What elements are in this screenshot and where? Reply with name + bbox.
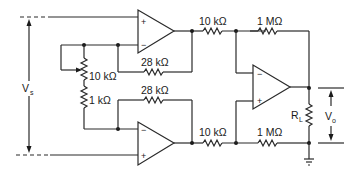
bottom-output-resistor-label: 1 MΩ — [257, 126, 283, 138]
bottom-input-opamp: − + — [138, 122, 174, 165]
pot-resistor-icon — [81, 58, 87, 80]
top-output-path: 10 kΩ 1 MΩ — [174, 15, 309, 88]
output-opamp: − + — [253, 65, 311, 109]
ground-icon — [304, 143, 314, 165]
top-feedback-label: 28 kΩ — [141, 56, 169, 68]
arrow-up-icon — [329, 90, 334, 97]
output-voltage-indicator: V o — [318, 88, 344, 143]
rl-label: R — [291, 109, 299, 121]
plus-sign: + — [257, 96, 262, 106]
input-voltage-indicator: V s — [16, 17, 52, 155]
minus-sign: − — [257, 69, 262, 79]
top-output-resistor-label: 1 MΩ — [257, 15, 283, 27]
bottom-feedback-resistor: 28 kΩ — [118, 84, 192, 143]
gain-resistor-label: 1 kΩ — [89, 94, 111, 106]
wiper-arrow-icon — [76, 68, 82, 73]
top-input-resistor-label: 10 kΩ — [199, 15, 227, 27]
pot-label: 10 kΩ — [89, 70, 117, 82]
vo-subscript: o — [332, 117, 336, 124]
bottom-feedback-label: 28 kΩ — [141, 84, 169, 96]
arrow-up-icon — [27, 19, 32, 26]
top-feedback-resistor: 28 kΩ — [118, 31, 192, 75]
circuit-diagram: V s + − − + 10 kΩ 1 kΩ — [0, 0, 354, 176]
top-input-opamp: + − — [138, 10, 174, 53]
minus-sign: − — [141, 40, 146, 50]
arrow-down-icon — [329, 134, 334, 141]
plus-sign: + — [141, 151, 146, 161]
plus-sign: + — [141, 17, 146, 27]
bottom-output-path: 10 kΩ 1 MΩ — [174, 101, 309, 146]
minus-sign: − — [141, 125, 146, 135]
rl-subscript: L — [299, 116, 303, 123]
gain-network: 10 kΩ 1 kΩ — [61, 43, 138, 131]
load-resistor: R L — [291, 88, 312, 145]
arrow-down-icon — [27, 146, 32, 153]
gain-resistor-icon — [81, 86, 87, 108]
vo-label: V — [325, 110, 332, 122]
bottom-input-resistor-label: 10 kΩ — [199, 126, 227, 138]
vs-subscript: s — [30, 89, 34, 96]
vs-label: V — [22, 82, 29, 94]
